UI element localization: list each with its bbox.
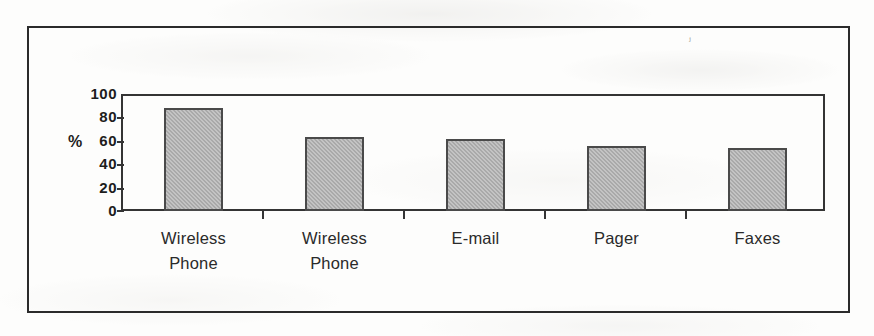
x-category-label-pager: Pager: [546, 226, 687, 251]
x-tick-mark-4: [685, 211, 687, 219]
x-category-label-line1: Pager: [594, 229, 639, 247]
x-category-label-line2: Phone: [264, 251, 405, 276]
y-tick-label-100: 100: [71, 88, 117, 100]
x-category-label-wireless-phone-2: Wireless Phone: [264, 226, 405, 276]
x-category-label-email: E-mail: [405, 226, 546, 251]
bar-email: [446, 139, 505, 212]
x-category-label-line1: Wireless: [302, 229, 367, 247]
x-category-label-faxes: Faxes: [687, 226, 828, 251]
scanned-page: ʲ % 100 80 60 40 20 0 Wireles: [0, 0, 874, 336]
y-tick-label-0: 0: [71, 205, 117, 217]
x-tick-mark-1: [262, 211, 264, 219]
y-tick-label-80: 80: [71, 111, 117, 123]
x-category-label-line1: E-mail: [452, 229, 500, 247]
y-axis-tick-labels: 100 80 60 40 20 0: [65, 94, 117, 211]
bar-wireless-phone-2: [305, 137, 364, 211]
bar-pager: [587, 146, 646, 212]
x-category-label-wireless-phone-1: Wireless Phone: [123, 226, 264, 276]
bar-chart: % 100 80 60 40 20 0 Wireless Phone: [0, 0, 874, 336]
x-category-label-line2: Phone: [123, 251, 264, 276]
x-tick-mark-3: [544, 211, 546, 219]
bar-wireless-phone-1: [164, 108, 223, 211]
y-tick-label-40: 40: [71, 158, 117, 170]
x-category-label-line1: Faxes: [735, 229, 781, 247]
y-tick-label-20: 20: [71, 182, 117, 194]
bar-faxes: [728, 148, 787, 211]
x-category-label-line1: Wireless: [161, 229, 226, 247]
y-tick-label-60: 60: [71, 135, 117, 147]
x-tick-mark-2: [403, 211, 405, 219]
